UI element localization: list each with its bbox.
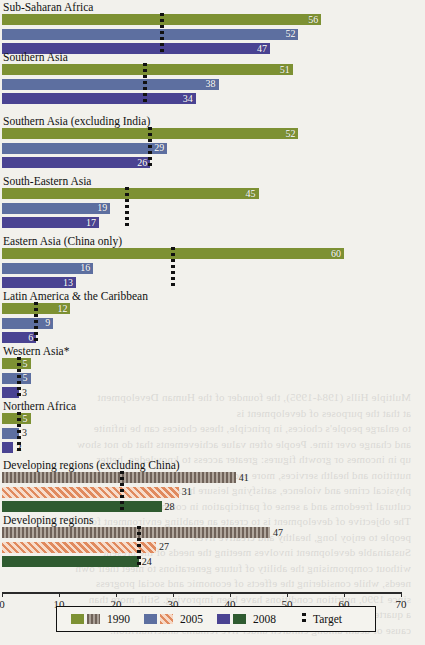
legend-swatch-2008-solid [217,614,230,624]
bar-2008: 2 [2,442,13,453]
x-tick [230,592,231,597]
legend-item-1990: 1990 [71,613,130,625]
bar-value-label: 45 [246,189,256,199]
bar-value-label: 51 [280,65,290,75]
target-marker [137,526,141,568]
target-line-icon [302,613,306,625]
x-tick [116,592,117,597]
group-label: South-Eastern Asia [3,175,91,188]
group-label: Western Asia* [3,345,69,358]
bar-value-label: 31 [182,487,192,497]
target-marker [143,63,147,105]
legend-label-1990: 1990 [107,613,130,625]
group-label: Developing regions [3,514,93,527]
x-tick [287,592,288,597]
bar-value-label: 27 [159,542,169,552]
target-marker [160,13,164,55]
legend-label-target: Target [313,613,342,625]
group-label: Developing regions (excluding China) [3,459,180,472]
target-marker [125,187,129,229]
bar-2005: 29 [2,143,167,154]
bar-value-label: 28 [165,502,175,512]
bar-2008: 28 [2,501,162,512]
x-tick [344,592,345,597]
bar-1990: 51 [2,64,293,75]
bar-value-label: 12 [57,304,67,314]
legend-swatch-2008-pattern [233,614,246,624]
bar-value-label: 5 [23,359,28,369]
group-label: Southern Asia [3,51,68,64]
group-label: Sub-Saharan Africa [3,1,93,14]
target-marker [17,357,21,399]
bar-value-label: 3 [22,388,27,398]
target-marker [148,127,152,169]
target-marker [120,471,124,513]
bar-value-label: 3 [22,428,27,438]
x-tick-label: 0 [0,598,5,610]
bar-2005: 9 [2,318,53,329]
legend-item-2008: 2008 [217,613,276,625]
bar-2005: 31 [2,487,179,498]
group-label: Northern Africa [3,400,76,413]
group-label: Latin America & the Caribbean [3,290,148,303]
legend-swatch-2005-pattern [160,614,173,624]
x-tick-label: 70 [396,598,407,610]
bar-1990: 45 [2,188,259,199]
bar-value-label: 19 [97,203,107,213]
bar-value-label: 47 [257,44,267,54]
bar-2005: 27 [2,542,156,553]
bar-2008: 13 [2,277,76,288]
bar-value-label: 52 [285,129,295,139]
legend-label-2005: 2005 [180,613,203,625]
bar-value-label: 5 [23,373,28,383]
legend-item-target: Target [302,613,342,625]
bar-value-label: 41 [239,473,249,483]
x-tick [59,592,60,597]
undernourishment-bar-chart: Sub-Saharan Africa565247Southern Asia513… [0,0,425,645]
legend-swatch-1990-solid [71,614,84,624]
bar-2008: 34 [2,93,196,104]
bar-value-label: 29 [154,143,164,153]
bar-2008: 17 [2,217,99,228]
x-tick [2,592,3,597]
bar-value-label: 56 [308,15,318,25]
target-marker [17,412,21,454]
bar-value-label: 13 [63,278,73,288]
bar-value-label: 9 [45,318,50,328]
group-label: Southern Asia (excluding India) [3,115,150,128]
bar-2005: 19 [2,203,110,214]
bar-value-label: 38 [206,79,216,89]
target-marker [171,247,175,289]
chart-legend: 1990 2005 2008 Target [56,606,376,632]
legend-label-2008: 2008 [253,613,276,625]
bar-2008: 26 [2,157,150,168]
target-marker [34,302,38,344]
plot-area: Sub-Saharan Africa565247Southern Asia513… [0,0,425,600]
bar-value-label: 34 [183,94,193,104]
bar-value-label: 60 [331,249,341,259]
x-tick [173,592,174,597]
bar-2008: 24 [2,556,139,567]
bar-value-label: 6 [28,333,33,343]
legend-swatch-2005-solid [144,614,157,624]
x-axis-line [2,592,401,594]
bar-2008: 6 [2,332,36,343]
bar-2005: 52 [2,29,298,40]
bar-value-label: 17 [86,218,96,228]
bar-value-label: 26 [137,158,147,168]
bar-value-label: 24 [142,557,152,567]
bar-value-label: 5 [23,414,28,424]
legend-swatch-1990-pattern [87,614,100,624]
legend-item-2005: 2005 [144,613,203,625]
bar-2005: 38 [2,79,219,90]
group-label: Eastern Asia (China only) [3,235,122,248]
bar-2005: 16 [2,263,93,274]
bar-value-label: 47 [273,528,283,538]
bar-value-label: 16 [80,263,90,273]
bar-value-label: 52 [285,29,295,39]
x-tick [401,592,402,597]
